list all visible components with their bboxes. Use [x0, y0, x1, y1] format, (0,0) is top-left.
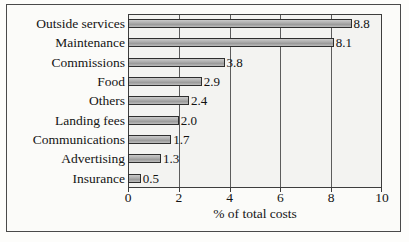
bar-value-label: 2.9 — [202, 75, 220, 88]
bar-row: 2.9 — [128, 72, 382, 91]
category-label: Maintenance — [0, 33, 125, 52]
bar-value-label: 2.0 — [179, 114, 197, 127]
bar-series: 8.88.13.82.92.42.01.71.30.5 — [128, 14, 382, 188]
bar-row: 1.3 — [128, 149, 382, 168]
bar — [128, 19, 352, 28]
bar-value-label: 8.1 — [334, 36, 352, 49]
x-tick-label: 0 — [125, 191, 132, 205]
x-axis-title: % of total costs — [128, 207, 382, 221]
category-label: Commissions — [0, 53, 125, 72]
category-label: Communications — [0, 130, 125, 149]
x-tick-label: 10 — [375, 191, 389, 205]
bar — [128, 154, 161, 163]
bar-row: 0.5 — [128, 169, 382, 188]
bar — [128, 135, 171, 144]
x-axis-tick-labels: 0246810 — [128, 191, 382, 207]
bar — [128, 77, 202, 86]
category-axis-labels: Outside servicesMaintenanceCommissionsFo… — [0, 14, 125, 188]
bar-value-label: 1.7 — [171, 133, 189, 146]
bar-row: 3.8 — [128, 53, 382, 72]
bar-value-label: 2.4 — [189, 94, 207, 107]
category-label: Advertising — [0, 149, 125, 168]
category-label: Others — [0, 91, 125, 110]
x-tick-label: 8 — [328, 191, 335, 205]
category-label: Food — [0, 72, 125, 91]
bar — [128, 116, 179, 125]
bar — [128, 58, 225, 67]
bar-row: 8.8 — [128, 14, 382, 33]
x-tick-label: 4 — [226, 191, 233, 205]
category-label: Outside services — [0, 14, 125, 33]
bar-value-label: 3.8 — [225, 56, 243, 69]
bar-value-label: 1.3 — [161, 152, 179, 165]
x-tick-label: 6 — [277, 191, 284, 205]
bar — [128, 38, 334, 47]
figure-page: Outside servicesMaintenanceCommissionsFo… — [0, 0, 409, 242]
category-label: Landing fees — [0, 111, 125, 130]
bar-row: 2.4 — [128, 91, 382, 110]
bar — [128, 96, 189, 105]
bar-row: 2.0 — [128, 111, 382, 130]
bar-row: 8.1 — [128, 33, 382, 52]
category-label: Insurance — [0, 169, 125, 188]
x-tick-label: 2 — [175, 191, 182, 205]
bar — [128, 174, 141, 183]
bar-value-label: 8.8 — [352, 17, 370, 30]
bar-value-label: 0.5 — [141, 172, 159, 185]
bar-row: 1.7 — [128, 130, 382, 149]
